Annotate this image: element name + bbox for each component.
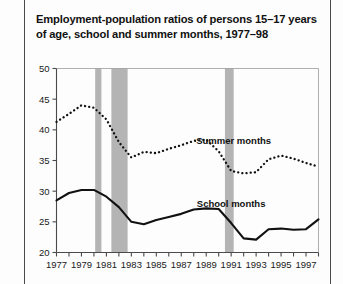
plot-area: 20253035404550 1977197919811983198519871… <box>0 0 343 284</box>
recession-band-2 <box>111 69 127 253</box>
y-tick-label: 30 <box>39 186 50 197</box>
x-tick-label: 1995 <box>271 259 292 270</box>
x-axis-labels: 1977197919811983198519871989199119931995… <box>46 259 317 270</box>
chart-svg: 20253035404550 1977197919811983198519871… <box>0 0 343 284</box>
y-tick-label: 25 <box>39 216 50 227</box>
recession-band-1 <box>95 69 101 253</box>
x-tick-label: 1997 <box>295 259 316 270</box>
x-tick-label: 1979 <box>71 259 92 270</box>
y-tick-label: 20 <box>39 247 50 258</box>
x-tick-label: 1993 <box>246 259 267 270</box>
y-tick-label: 40 <box>39 124 50 135</box>
y-tick-label: 35 <box>39 155 50 166</box>
figure-container: Employment-population ratios of persons … <box>0 0 343 284</box>
x-tick-label: 1977 <box>46 259 67 270</box>
y-tick-label: 50 <box>39 63 50 74</box>
annotation-school-months: School months <box>197 198 266 209</box>
x-tick-label: 1985 <box>146 259 167 270</box>
y-tick-label: 45 <box>39 94 50 105</box>
x-tick-label: 1983 <box>121 259 142 270</box>
x-tick-label: 1987 <box>171 259 192 270</box>
annotation-summer-months: Summer months <box>196 135 271 146</box>
recession-bands <box>95 69 233 253</box>
y-axis-labels: 20253035404550 <box>39 63 50 258</box>
x-tick-label: 1991 <box>221 259 242 270</box>
x-tick-label: 1981 <box>96 259 117 270</box>
x-tick-label: 1989 <box>196 259 217 270</box>
